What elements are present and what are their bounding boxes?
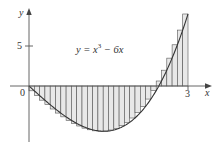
riemann-rectangle — [135, 86, 140, 113]
function-label-rhs: − 6x — [101, 44, 123, 55]
y-axis-label: y — [19, 8, 23, 18]
x-axis-label: x — [205, 88, 209, 98]
riemann-rectangle — [140, 86, 145, 106]
riemann-rectangle — [66, 86, 71, 120]
function-label: y = x3 − 6x — [76, 42, 123, 55]
riemann-sum-chart — [0, 0, 222, 148]
riemann-rectangle — [167, 58, 172, 86]
riemann-rectangles — [29, 14, 188, 131]
function-label-lhs: y = x — [76, 44, 98, 55]
riemann-rectangle — [87, 86, 92, 130]
riemann-rectangle — [82, 86, 87, 128]
riemann-rectangle — [130, 86, 135, 118]
riemann-rectangle — [119, 86, 124, 126]
riemann-rectangle — [93, 86, 98, 131]
riemann-rectangle — [151, 86, 156, 91]
riemann-rectangle — [124, 86, 129, 122]
riemann-rectangle — [61, 86, 66, 117]
riemann-rectangle — [109, 86, 114, 130]
riemann-rectangle — [114, 86, 119, 128]
riemann-rectangle — [71, 86, 76, 123]
origin-label: 0 — [20, 88, 25, 98]
riemann-rectangle — [183, 14, 188, 86]
riemann-rectangle — [77, 86, 82, 126]
y-tick-label-5: 5 — [17, 41, 22, 51]
y-axis-arrow-icon — [26, 8, 31, 15]
riemann-rectangle — [103, 86, 108, 131]
riemann-rectangle — [98, 86, 103, 131]
x-tick-label-3: 3 — [185, 89, 190, 99]
riemann-rectangle — [146, 86, 151, 99]
